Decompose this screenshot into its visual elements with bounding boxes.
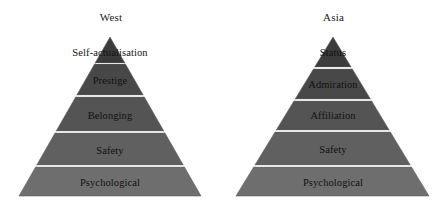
pyramid-tier-asia-1 bbox=[315, 37, 351, 67]
pyramid-panel-asia: Asia Status Admiration Affiliation Safet… bbox=[222, 0, 445, 207]
pyramid-divider-west-2 bbox=[77, 95, 143, 97]
needs-hierarchy-figure: West Self-actualisation Prestige Belongi… bbox=[0, 0, 445, 207]
pyramid-tier-asia-3 bbox=[276, 101, 389, 130]
pyramid-tier-west-4 bbox=[37, 133, 184, 165]
pyramid-divider-asia-3 bbox=[276, 130, 389, 132]
pyramid-divider-west-1 bbox=[96, 63, 125, 64]
pyramid-svg-west bbox=[0, 0, 222, 207]
pyramid-panel-west: West Self-actualisation Prestige Belongi… bbox=[0, 0, 222, 207]
pyramid-tier-asia-2 bbox=[295, 69, 370, 99]
pyramid-tier-asia-4 bbox=[255, 132, 410, 165]
pyramid-divider-west-3 bbox=[56, 131, 163, 133]
pyramid-divider-west-4 bbox=[37, 165, 183, 167]
pyramid-graphic-west bbox=[0, 0, 222, 207]
pyramid-divider-asia-1 bbox=[315, 67, 351, 69]
pyramid-divider-asia-2 bbox=[295, 99, 370, 101]
pyramid-tier-west-5 bbox=[19, 167, 201, 196]
pyramid-tier-asia-5 bbox=[236, 167, 429, 196]
pyramid-svg-asia bbox=[222, 0, 445, 207]
pyramid-divider-asia-4 bbox=[255, 165, 410, 167]
pyramid-graphic-asia bbox=[222, 0, 445, 207]
pyramid-tier-west-2 bbox=[77, 64, 143, 95]
pyramid-tier-west-1 bbox=[95, 37, 125, 63]
pyramid-tier-west-3 bbox=[56, 97, 164, 131]
